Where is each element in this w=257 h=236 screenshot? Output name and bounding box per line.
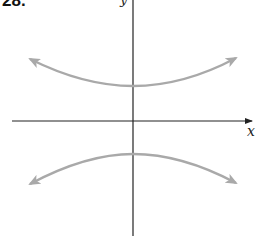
lower-branch	[133, 154, 236, 183]
hyperbola-plot	[0, 0, 257, 236]
upper-branch	[133, 58, 236, 86]
lower-branch	[30, 154, 133, 184]
upper-branch	[30, 59, 133, 86]
